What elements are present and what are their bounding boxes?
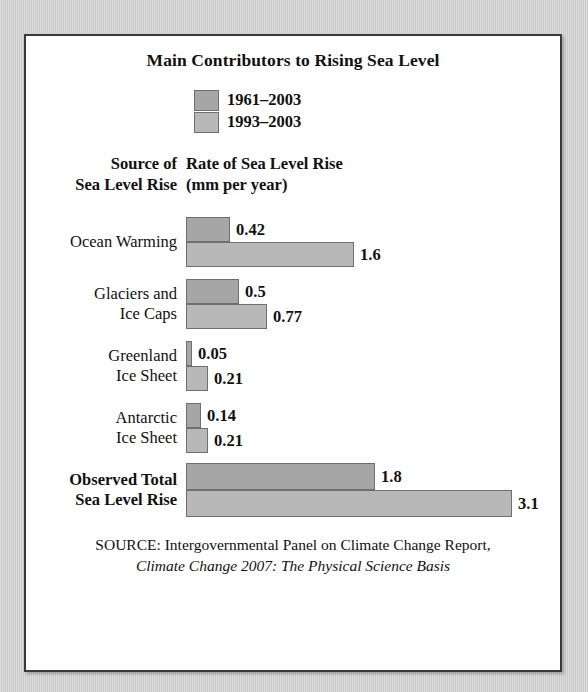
bar-value-1961-2003: 1.8 <box>381 467 402 487</box>
bar-1961-2003 <box>186 217 230 242</box>
bar-value-1993-2003: 1.6 <box>360 245 381 265</box>
bar-1961-2003 <box>186 463 375 490</box>
bar-line-1993-2003: 0.77 <box>186 304 560 329</box>
column-headers: Source of Sea Level Rise Rate of Sea Lev… <box>26 153 560 195</box>
bar-1961-2003 <box>186 279 239 304</box>
row-label-observed-total: Observed Total Sea Level Rise <box>26 470 186 510</box>
row-label-line1: Antarctic <box>26 408 177 428</box>
bar-value-1961-2003: 0.42 <box>236 220 265 240</box>
bar-line-1961-2003: 1.8 <box>186 463 560 490</box>
bar-1993-2003 <box>186 428 208 453</box>
bar-1961-2003 <box>186 341 192 366</box>
bar-value-1993-2003: 3.1 <box>518 494 539 514</box>
bar-line-1961-2003: 0.5 <box>186 279 560 304</box>
legend-item-1993-2003: 1993–2003 <box>194 111 560 133</box>
chart-legend: 1961–2003 1993–2003 <box>26 89 560 133</box>
table-row: Glaciers and Ice Caps 0.5 0.77 <box>26 273 560 335</box>
table-row: Antarctic Ice Sheet 0.14 0.21 <box>26 397 560 459</box>
row-label-line2: Ice Caps <box>26 304 177 324</box>
bar-value-1993-2003: 0.21 <box>214 431 243 451</box>
row-bars: 1.8 3.1 <box>186 463 560 517</box>
row-bars: 0.5 0.77 <box>186 279 560 329</box>
row-bars: 0.05 0.21 <box>186 341 560 391</box>
bar-line-1993-2003: 0.21 <box>186 366 560 391</box>
header-source-column: Source of Sea Level Rise <box>26 153 186 195</box>
row-label-line2: Sea Level Rise <box>26 490 177 510</box>
bar-line-1961-2003: 0.14 <box>186 403 560 428</box>
row-bars: 0.14 0.21 <box>186 403 560 453</box>
source-line1: SOURCE: Intergovernmental Panel on Clima… <box>40 535 546 556</box>
legend-label-1961-2003: 1961–2003 <box>227 90 301 110</box>
row-label-greenland-ice-sheet: Greenland Ice Sheet <box>26 346 186 386</box>
row-label-line1: Glaciers and <box>26 284 177 304</box>
bar-value-1993-2003: 0.21 <box>214 369 243 389</box>
row-label-glaciers-and-ice-caps: Glaciers and Ice Caps <box>26 284 186 324</box>
legend-swatch-1993-2003 <box>194 112 219 133</box>
row-label-ocean-warming: Ocean Warming <box>26 232 186 252</box>
row-label-line1: Observed Total <box>26 470 177 490</box>
bar-1993-2003 <box>186 242 354 267</box>
table-row: Observed Total Sea Level Rise 1.8 3.1 <box>26 459 560 521</box>
row-label-antarctic-ice-sheet: Antarctic Ice Sheet <box>26 408 186 448</box>
bar-value-1993-2003: 0.77 <box>273 307 302 327</box>
row-bars: 0.42 1.6 <box>186 217 560 267</box>
row-label-line1: Greenland <box>26 346 177 366</box>
bar-value-1961-2003: 0.14 <box>207 406 236 426</box>
chart-title: Main Contributors to Rising Sea Level <box>26 50 560 71</box>
row-label-line1: Ocean Warming <box>26 232 177 252</box>
table-row: Greenland Ice Sheet 0.05 0.21 <box>26 335 560 397</box>
row-label-line2: Ice Sheet <box>26 428 177 448</box>
bar-line-1961-2003: 0.05 <box>186 341 560 366</box>
header-rate-column: Rate of Sea Level Rise (mm per year) <box>186 153 343 195</box>
legend-swatch-1961-2003 <box>194 90 219 111</box>
source-note: SOURCE: Intergovernmental Panel on Clima… <box>26 535 560 577</box>
bar-value-1961-2003: 0.05 <box>198 344 227 364</box>
row-label-line2: Ice Sheet <box>26 366 177 386</box>
legend-item-1961-2003: 1961–2003 <box>194 89 560 111</box>
header-source-line1: Source of <box>26 153 177 174</box>
bar-line-1961-2003: 0.42 <box>186 217 560 242</box>
header-source-line2: Sea Level Rise <box>26 174 177 195</box>
bar-1961-2003 <box>186 403 201 428</box>
bar-1993-2003 <box>186 490 512 517</box>
bar-1993-2003 <box>186 366 208 391</box>
header-rate-line1: Rate of Sea Level Rise <box>186 153 343 174</box>
bar-line-1993-2003: 0.21 <box>186 428 560 453</box>
bar-rows: Ocean Warming 0.42 1.6 Glaciers and Ice … <box>26 211 560 521</box>
source-line2: Climate Change 2007: The Physical Scienc… <box>40 556 546 577</box>
table-row: Ocean Warming 0.42 1.6 <box>26 211 560 273</box>
bar-line-1993-2003: 1.6 <box>186 242 560 267</box>
header-rate-line2: (mm per year) <box>186 174 343 195</box>
bar-line-1993-2003: 3.1 <box>186 490 560 517</box>
bar-1993-2003 <box>186 304 267 329</box>
bar-value-1961-2003: 0.5 <box>245 282 266 302</box>
chart-panel: Main Contributors to Rising Sea Level 19… <box>24 34 562 672</box>
legend-label-1993-2003: 1993–2003 <box>227 112 301 132</box>
